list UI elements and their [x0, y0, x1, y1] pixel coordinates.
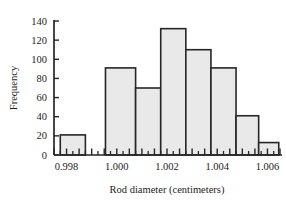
- y-tick-label: 80: [37, 73, 48, 84]
- x-axis-tick-labels: 0.9981.0001.0021.0041.006: [55, 161, 280, 172]
- y-tick-label: 60: [37, 92, 48, 103]
- y-tick-label: 20: [37, 130, 48, 141]
- x-tick-label: 1.004: [205, 161, 229, 172]
- y-tick-label: 0: [42, 150, 47, 161]
- histogram-bar: [186, 50, 211, 155]
- y-tick-label: 40: [37, 111, 48, 122]
- y-tick-label: 140: [31, 16, 47, 27]
- histogram-bar: [161, 29, 186, 155]
- x-tick-label: 1.002: [155, 161, 179, 172]
- x-tick-label: 1.000: [105, 161, 129, 172]
- y-axis-tick-labels: 020406080100120140: [31, 16, 47, 161]
- x-axis-title: Rod diameter (centimeters): [110, 184, 225, 196]
- histogram-bar: [136, 88, 161, 155]
- x-tick-label: 1.006: [256, 161, 280, 172]
- y-tick-label: 120: [31, 35, 47, 46]
- histogram-bar: [211, 68, 236, 155]
- histogram-plot: 020406080100120140 0.9981.0001.0021.0041…: [0, 0, 286, 207]
- y-tick-label: 100: [31, 54, 47, 65]
- histogram-bar: [105, 68, 135, 155]
- x-tick-label: 0.998: [55, 161, 79, 172]
- y-axis-title: Frequency: [8, 65, 19, 110]
- plot-bars: [60, 29, 278, 155]
- histogram-figure: 020406080100120140 0.9981.0001.0021.0041…: [0, 0, 286, 207]
- y-axis: [54, 20, 59, 155]
